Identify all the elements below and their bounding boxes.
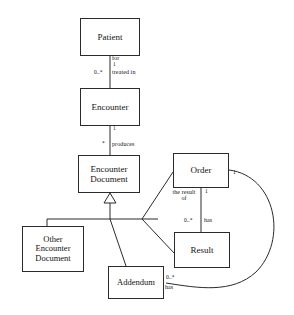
class-box-result[interactable]: Result: [174, 232, 230, 268]
uml-class-diagram: Patient Encounter Encounter Document Oth…: [0, 0, 294, 315]
edge-label-order-one: 1: [205, 189, 208, 195]
edge-label-order-right-one: 1: [233, 170, 236, 176]
class-box-order[interactable]: Order: [173, 153, 229, 188]
class-name-result: Result: [175, 245, 229, 255]
edge-label-produces: produces: [112, 141, 134, 147]
edge-label-patient-multiplicity: 1: [113, 62, 116, 68]
class-box-patient[interactable]: Patient: [80, 18, 140, 56]
edge-label-has-addendum: has: [165, 284, 173, 290]
class-box-other-encounter-document[interactable]: Other Encounter Document: [22, 226, 84, 272]
edge-addendum-generalization: [110, 219, 126, 266]
class-name-other-encounter-document: Other Encounter Document: [23, 235, 83, 264]
edge-label-encounter-multiplicity: 0..*: [94, 70, 103, 76]
edge-label-the-result-of: the result of: [166, 189, 202, 202]
class-name-encounter: Encounter: [81, 102, 139, 112]
edge-label-has-result: has: [204, 217, 212, 223]
edge-label-result-multiplicity: 0..*: [184, 218, 193, 224]
edge-label-addendum-multiplicity: 0..*: [166, 275, 175, 281]
class-name-order: Order: [174, 165, 228, 175]
edge-label-encounter-one: 1: [113, 126, 116, 132]
class-name-addendum: Addendum: [109, 278, 163, 288]
generalization-triangle-icon: [104, 193, 116, 203]
class-name-patient: Patient: [81, 32, 139, 42]
edge-label-treated-in: treated in: [112, 69, 136, 75]
class-box-addendum[interactable]: Addendum: [108, 266, 164, 299]
edge-result-generalization: [142, 219, 174, 253]
class-box-encounter[interactable]: Encounter: [80, 88, 140, 126]
class-name-encounter-document: Encounter Document: [79, 164, 139, 184]
class-box-encounter-document[interactable]: Encounter Document: [78, 155, 140, 193]
edge-label-document-multiplicity: *: [102, 141, 105, 147]
